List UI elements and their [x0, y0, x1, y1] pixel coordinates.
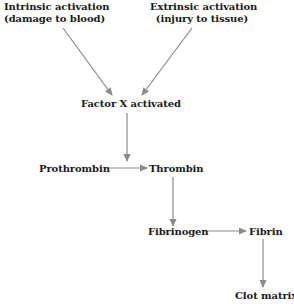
node-clot-matrix: Clot matrix [235, 290, 294, 302]
node-prothrombin: Prothrombin [39, 163, 110, 175]
node-thrombin: Thrombin [149, 163, 204, 175]
arrow-extrinsic-to-factor-x [142, 28, 192, 95]
extrinsic-title: Extrinsic activation [150, 1, 254, 13]
extrinsic-subtitle: (injury to tissue) [150, 13, 254, 25]
node-factor-x-activated: Factor X activated [81, 98, 181, 110]
intrinsic-subtitle: (damage to blood) [4, 13, 104, 25]
node-intrinsic-activation: Intrinsic activation (damage to blood) [4, 1, 104, 25]
node-extrinsic-activation: Extrinsic activation (injury to tissue) [150, 1, 254, 25]
arrow-intrinsic-to-factor-x [63, 28, 112, 95]
node-fibrinogen: Fibrinogen [148, 226, 209, 238]
node-fibrin: Fibrin [249, 226, 283, 238]
intrinsic-title: Intrinsic activation [4, 1, 104, 13]
arrows-layer [0, 0, 294, 304]
